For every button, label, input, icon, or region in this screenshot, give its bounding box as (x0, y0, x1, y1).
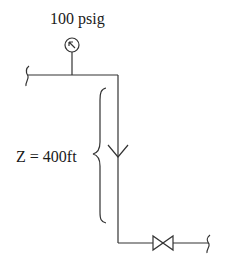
diagram-graphics (0, 0, 226, 267)
gate-valve-icon (153, 236, 173, 250)
pressure-label: 100 psig (50, 10, 105, 28)
pipe-break-left-icon (26, 66, 29, 86)
gauge-needle-icon (69, 42, 75, 48)
dimension-brace-icon (93, 88, 106, 223)
pipe-break-right-icon (207, 235, 210, 253)
piping-diagram: 100 psig Z = 400ft (0, 0, 226, 267)
elevation-label: Z = 400ft (16, 148, 77, 166)
